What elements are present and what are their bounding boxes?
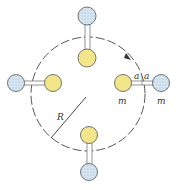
half-bond-label-left: a bbox=[134, 71, 139, 81]
molecule-bottom bbox=[81, 127, 98, 181]
outer-atom bbox=[81, 164, 98, 181]
outer-atom bbox=[78, 7, 96, 25]
molecule-right: a a m m bbox=[115, 71, 170, 106]
inner-atom bbox=[78, 49, 96, 67]
outer-atom bbox=[153, 75, 170, 92]
rotating-molecules-diagram: R a a m m bbox=[0, 0, 179, 190]
molecule-top bbox=[78, 7, 96, 67]
inner-atom bbox=[81, 127, 98, 144]
molecule-left bbox=[8, 75, 62, 92]
rotation-arrow-icon bbox=[124, 53, 131, 60]
inner-atom bbox=[115, 75, 132, 92]
outer-atom bbox=[8, 75, 25, 92]
mass-label-outer: m bbox=[157, 96, 166, 106]
mass-label-inner: m bbox=[118, 96, 127, 106]
half-bond-label-right: a bbox=[144, 71, 149, 81]
inner-atom bbox=[45, 75, 62, 92]
radius-label: R bbox=[56, 112, 64, 122]
